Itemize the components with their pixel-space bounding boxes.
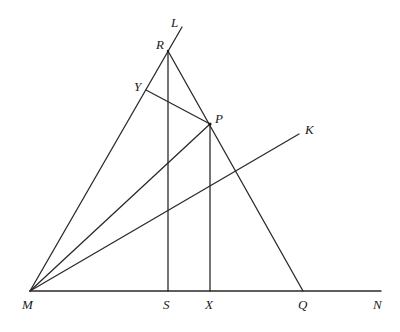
label-l: L xyxy=(170,15,178,30)
line-mp xyxy=(30,124,210,291)
label-q: Q xyxy=(298,297,308,312)
label-x: X xyxy=(204,297,214,312)
geometry-diagram: M S X Q N R L Y P K xyxy=(0,0,400,332)
label-p: P xyxy=(214,111,223,126)
label-k: K xyxy=(304,122,315,137)
point-p-dot xyxy=(208,122,211,125)
line-ml xyxy=(30,27,182,291)
point-r-dot xyxy=(167,50,169,52)
label-m: M xyxy=(21,297,34,312)
label-r: R xyxy=(155,37,164,52)
label-y: Y xyxy=(134,79,143,94)
label-s: S xyxy=(163,297,170,312)
line-yp xyxy=(146,90,210,124)
label-n: N xyxy=(372,297,383,312)
